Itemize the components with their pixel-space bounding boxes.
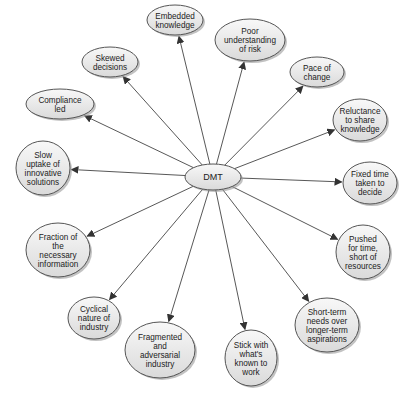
node-fixed-time-taken-to-decide[interactable]: Fixed timetaken todecide (343, 162, 399, 206)
edge-arrow-skewed-decisions (123, 77, 202, 165)
node-label-line: and (153, 342, 167, 351)
node-short-term-needs[interactable]: Short-termneeds overlonger-termaspiratio… (295, 298, 361, 354)
edge-arrow-poor-understanding-of-risk (216, 62, 244, 164)
node-label-line: Compliance (38, 96, 82, 105)
node-label-line: solutions (27, 178, 59, 187)
node-label-line: needs over (307, 317, 348, 326)
node-slow-uptake[interactable]: Slowuptake ofinnovativesolutions (16, 141, 72, 197)
node-label-line: known to (235, 359, 268, 368)
node-label-line: for time, (348, 244, 378, 253)
node-label-line: innovative (25, 169, 62, 178)
node-fragmented-adversarial-industry[interactable]: Fragmentedandadversarialindustry (125, 322, 197, 380)
node-stick-with-whats-known[interactable]: Stick withwhat'sknown towork (225, 330, 279, 388)
edge-arrow-fragmented-adversarial-industry (169, 190, 209, 321)
node-label-line: industry (146, 360, 176, 369)
node-label-line: Pushed (349, 235, 377, 244)
edge-arrow-slow-uptake (71, 170, 185, 176)
edge-arrow-fraction-of-necessary-information (87, 186, 193, 236)
node-label-line: of risk (239, 45, 262, 54)
node-label-line: decide (358, 188, 383, 197)
node-label: Reluctanceto shareknowledge (340, 107, 381, 134)
node-label-line: what's (239, 350, 263, 359)
nodes-layer: EmbeddedknowledgePoorunderstandingof ris… (16, 5, 399, 388)
node-label-line: Skewed (95, 54, 125, 63)
node-label-line: aspirations (307, 335, 347, 344)
node-skewed-decisions[interactable]: Skeweddecisions (82, 47, 140, 79)
node-label-line: Slow (34, 151, 52, 160)
node-label-line: Short-term (308, 308, 347, 317)
node-label: Cyclicalnature ofindustry (78, 305, 111, 332)
edge-arrow-compliance-led (85, 116, 194, 168)
node-label-line: work (241, 368, 260, 377)
center-node-dmt[interactable]: DMT (185, 164, 243, 192)
node-label-line: adversarial (140, 351, 180, 360)
node-cyclical-nature-of-industry[interactable]: Cyclicalnature ofindustry (68, 297, 122, 341)
node-pace-of-change[interactable]: Pace ofchange (290, 57, 346, 89)
node-label-line: Fragmented (138, 333, 183, 342)
node-label: Short-termneeds overlonger-termaspiratio… (306, 308, 348, 344)
node-label-line: knowledge (155, 21, 195, 30)
node-poor-understanding-of-risk[interactable]: Poorunderstandingof risk (215, 19, 287, 63)
node-label: Fraction ofthenecessaryinformation (38, 233, 79, 269)
edge-arrow-pace-of-change (225, 86, 303, 165)
node-label-line: to share (345, 116, 375, 125)
node-label-line: information (38, 260, 79, 269)
edge-arrow-embedded-knowledge (179, 36, 210, 164)
node-label-line: necessary (39, 251, 77, 260)
node-label-line: resources (345, 262, 381, 271)
node-label-line: led (55, 105, 66, 114)
node-label: Skeweddecisions (93, 54, 127, 72)
edge-arrow-fixed-time-taken-to-decide (241, 178, 342, 182)
node-label: Pace ofchange (303, 64, 331, 82)
node-label-line: the (52, 242, 64, 251)
node-label-line: decisions (93, 63, 127, 72)
node-label-line: Poor (241, 27, 259, 36)
node-label-line: taken to (355, 179, 385, 188)
node-pushed-for-time[interactable]: Pushedfor time,short ofresources (336, 225, 392, 281)
node-reluctance-to-share-knowledge[interactable]: Reluctanceto shareknowledge (333, 99, 389, 143)
node-label: Embeddedknowledge (155, 12, 195, 30)
node-label: Pushedfor time,short ofresources (345, 235, 381, 271)
node-label-line: Stick with (234, 341, 269, 350)
node-label-line: industry (80, 323, 110, 332)
node-label-line: Embedded (155, 12, 195, 21)
node-label-line: Fraction of (39, 233, 78, 242)
node-label-line: Reluctance (340, 107, 381, 116)
edge-arrow-cyclical-nature-of-industry (110, 189, 203, 299)
node-label-line: Pace of (303, 64, 331, 73)
node-fraction-of-necessary-information[interactable]: Fraction ofthenecessaryinformation (26, 223, 92, 279)
node-label-line: longer-term (306, 326, 348, 335)
edge-arrow-pushed-for-time (232, 187, 337, 240)
node-label-line: uptake of (26, 160, 60, 169)
node-label-line: knowledge (340, 125, 380, 134)
center-node-label: DMT (203, 172, 223, 182)
node-compliance-led[interactable]: Complianceled (26, 89, 96, 121)
node-embedded-knowledge[interactable]: Embeddedknowledge (147, 5, 205, 37)
node-label-line: short of (349, 253, 377, 262)
concept-map: EmbeddedknowledgePoorunderstandingof ris… (0, 0, 417, 402)
edge-arrow-reluctance-to-share-knowledge (234, 130, 334, 169)
node-label-line: Fixed time (351, 170, 389, 179)
edge-arrow-stick-with-whats-known (216, 190, 245, 329)
node-label-line: nature of (78, 314, 111, 323)
node-label-line: change (304, 73, 331, 82)
node-label-line: Cyclical (80, 305, 108, 314)
node-label-line: understanding (224, 36, 276, 45)
